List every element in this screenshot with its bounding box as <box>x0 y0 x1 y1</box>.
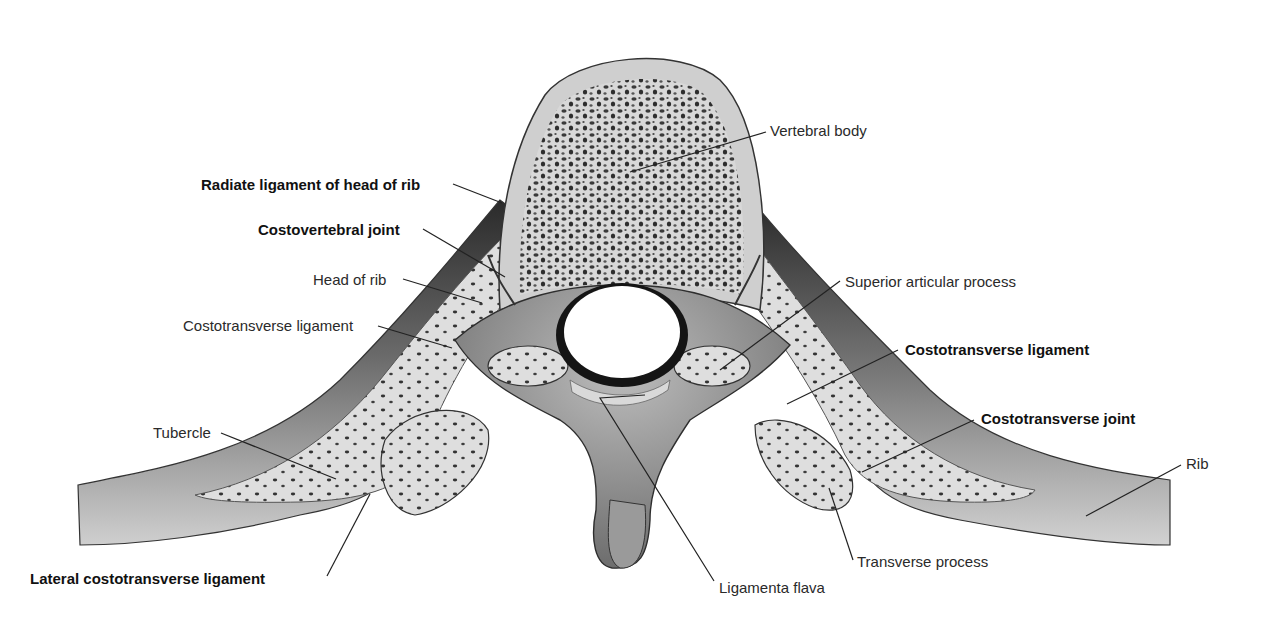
label-vertebral-body: Vertebral body <box>770 122 867 140</box>
vertebral-foramen <box>556 283 688 405</box>
label-costotransverse-ligament-left: Costotransverse ligament <box>183 317 353 335</box>
label-costotransverse-joint: Costotransverse joint <box>981 410 1135 428</box>
label-costotransverse-ligament-right: Costotransverse ligament <box>905 341 1089 359</box>
label-rib: Rib <box>1186 455 1209 473</box>
label-superior-articular-process: Superior articular process <box>845 273 1016 291</box>
label-tubercle: Tubercle <box>153 424 211 442</box>
label-transverse-process: Transverse process <box>857 553 988 571</box>
label-lateral-costotransverse-ligament: Lateral costotransverse ligament <box>30 570 265 588</box>
leader-line-radiate-ligament <box>453 184 502 203</box>
vertebral-body <box>499 59 764 310</box>
label-head-of-rib: Head of rib <box>313 271 386 289</box>
label-radiate-ligament: Radiate ligament of head of rib <box>201 176 420 194</box>
label-ligamenta-flava: Ligamenta flava <box>719 579 825 597</box>
label-costovertebral-joint: Costovertebral joint <box>258 221 400 239</box>
